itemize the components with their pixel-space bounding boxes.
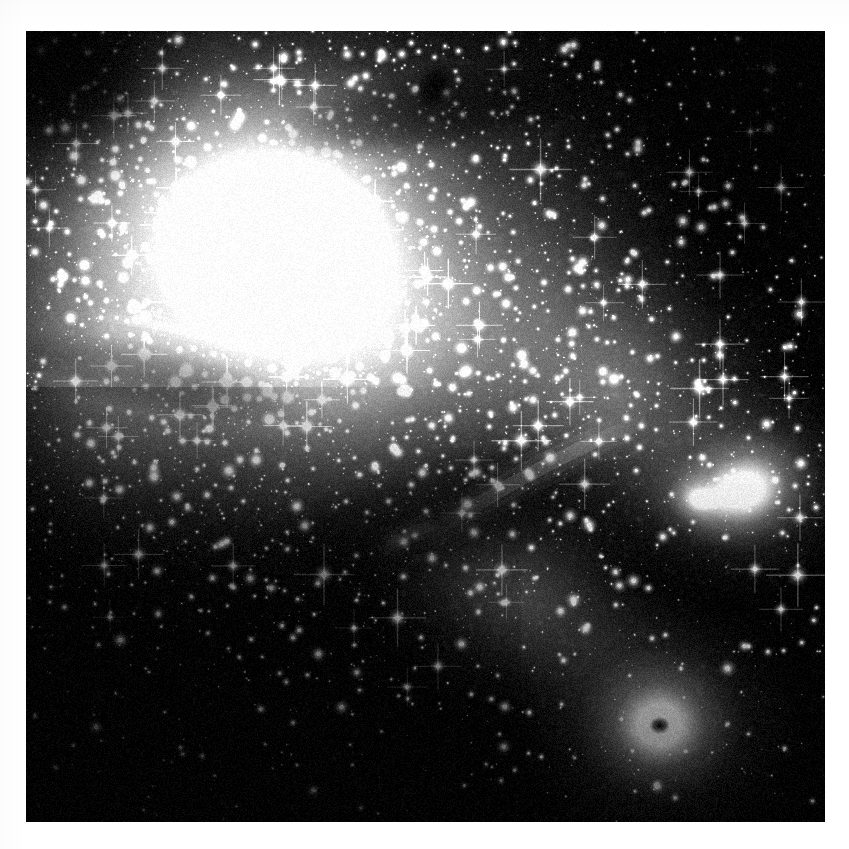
image-title: Star cluster and emission nebula complex (0, 0, 1, 1)
sky-canvas (26, 31, 825, 822)
image-page: Star cluster and emission nebula complex… (0, 0, 849, 849)
image-medium: monochrome photographic plate (0, 0, 1, 1)
astronomical-photograph (26, 31, 825, 822)
